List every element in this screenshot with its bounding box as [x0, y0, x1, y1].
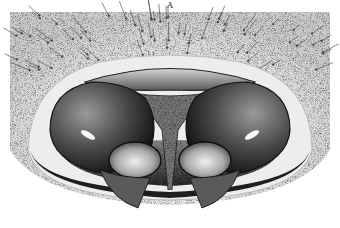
seta-socket: [321, 40, 323, 42]
seta-socket: [142, 54, 144, 56]
seta-socket: [51, 67, 53, 69]
seta-socket: [246, 52, 248, 54]
seta-socket: [178, 32, 180, 34]
seta-socket: [39, 17, 41, 19]
seta-socket: [143, 43, 145, 45]
seta-socket: [293, 29, 295, 31]
seta-socket: [108, 15, 110, 17]
seta-socket: [97, 59, 99, 61]
seta-socket: [243, 29, 245, 31]
seta-socket: [312, 44, 314, 46]
seta-socket: [29, 35, 31, 37]
seta-socket: [150, 36, 152, 38]
seta-socket: [322, 53, 324, 55]
seta-socket: [38, 69, 40, 71]
seta-socket: [186, 52, 188, 54]
seta-socket: [168, 39, 170, 41]
seta-socket: [201, 37, 203, 39]
seta-socket: [237, 51, 239, 53]
seta-socket: [224, 23, 226, 25]
seta-socket: [166, 47, 168, 49]
seta-socket: [80, 37, 82, 39]
seta-socket: [15, 35, 17, 37]
seta-socket: [289, 41, 291, 43]
seta-socket: [61, 56, 63, 58]
seta-socket: [247, 60, 249, 62]
seta-socket: [150, 18, 152, 20]
seta-socket: [38, 66, 40, 68]
seta-socket: [56, 23, 58, 25]
illustration: [0, 0, 340, 228]
seta-socket: [134, 24, 136, 26]
seta-socket: [272, 23, 274, 25]
seta-socket: [86, 53, 88, 55]
seta-socket: [223, 30, 225, 32]
seta-socket: [72, 38, 74, 40]
seta-socket: [159, 21, 161, 23]
seta-socket: [254, 34, 256, 36]
seta-socket: [89, 40, 91, 42]
seta-socket: [39, 14, 41, 16]
seta-socket: [47, 42, 49, 44]
seta-socket: [296, 45, 298, 47]
seta-socket: [154, 39, 156, 41]
seta-socket: [29, 69, 31, 71]
seta-socket: [154, 19, 156, 21]
right-bulb: [179, 142, 231, 178]
seta-socket: [184, 33, 186, 35]
seta-socket: [208, 18, 210, 20]
seta-socket: [141, 30, 143, 32]
seta-socket: [315, 69, 317, 71]
left-bulb: [109, 142, 161, 178]
seta-socket: [244, 33, 246, 35]
seta-socket: [16, 58, 18, 60]
seta-socket: [125, 18, 127, 20]
seta-socket: [85, 31, 87, 33]
seta-socket: [21, 33, 23, 35]
seta-socket: [217, 21, 219, 23]
seta-socket: [311, 33, 313, 35]
seta-socket: [51, 40, 53, 42]
seta-socket: [87, 58, 89, 60]
seta-socket: [272, 64, 274, 66]
seta-socket: [165, 17, 167, 19]
